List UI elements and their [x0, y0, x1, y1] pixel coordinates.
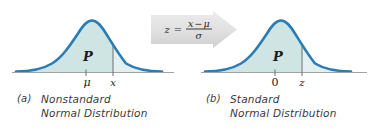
probability-label-b: P: [273, 49, 283, 64]
formula-equals: =: [174, 24, 182, 35]
shaded-probability-area: [16, 21, 113, 72]
panel-tag-b: (b): [206, 92, 230, 106]
formula-numerator-right: μ: [203, 17, 209, 28]
axis-tick-label-zero: 0: [265, 76, 285, 89]
z-score-formula: z = x−μ σ: [157, 14, 219, 45]
caption-line-2-b: Normal Distribution: [230, 106, 376, 120]
axis-tick-label-z: z: [292, 77, 312, 88]
formula-numerator: x−μ: [186, 18, 212, 29]
formula-fraction: x−μ σ: [186, 18, 212, 40]
caption-line-1-b: Standard: [230, 92, 376, 106]
formula-minus-sign: −: [193, 17, 203, 28]
normal-distribution-figure: P μ x (a) Nonstandard Normal Distributio…: [0, 0, 378, 131]
axis-tick-label-x: x: [103, 77, 123, 88]
caption-line-1-a: Nonstandard: [41, 92, 187, 106]
caption-standard: (b) Standard Normal Distribution: [206, 92, 376, 120]
panel-tag-a: (a): [17, 92, 41, 106]
transformation-arrow: z = x−μ σ: [151, 11, 237, 48]
caption-line-2-a: Normal Distribution: [41, 106, 187, 120]
axis-tick-label-mu: μ: [77, 76, 97, 89]
formula-denominator: σ: [194, 30, 205, 41]
formula-lhs: z: [164, 24, 169, 35]
probability-label-a: P: [83, 49, 93, 64]
caption-nonstandard: (a) Nonstandard Normal Distribution: [17, 92, 187, 120]
